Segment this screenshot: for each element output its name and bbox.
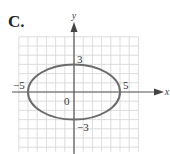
tick-label-pos5: 5 [123, 79, 129, 91]
tick-label-neg3: −3 [77, 121, 89, 133]
x-axis-arrow-icon [154, 89, 164, 96]
tick-label-neg5: −5 [13, 79, 25, 91]
y-axis-label: y [71, 10, 77, 21]
tick-label-pos3: 3 [77, 53, 83, 65]
x-axis-label: x [164, 86, 170, 97]
y-axis-arrow-icon [71, 22, 78, 32]
origin-label: 0 [64, 95, 70, 107]
ellipse-chart: x y −5 5 3 −3 0 [0, 0, 170, 154]
